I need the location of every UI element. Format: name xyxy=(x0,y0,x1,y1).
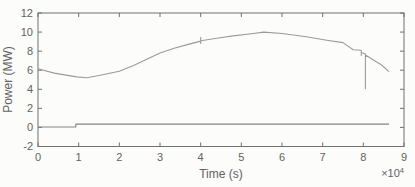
x-tick-label: 5 xyxy=(238,151,244,163)
y-tick-label: 2 xyxy=(27,102,33,114)
x-tick-label: 1 xyxy=(76,151,82,163)
multiplier-base: ×10 xyxy=(381,167,400,179)
power-chart-figure: 0123456789-2024681012 Power (MW) Time (s… xyxy=(0,0,415,187)
y-tick-label: -2 xyxy=(23,140,33,152)
x-tick-label: 6 xyxy=(279,151,285,163)
y-axis-label: Power (MW) xyxy=(1,46,15,113)
y-tick-label: 10 xyxy=(21,26,33,38)
multiplier-exponent: 4 xyxy=(400,166,404,175)
y-tick-label: 8 xyxy=(27,45,33,57)
x-tick-label: 8 xyxy=(360,151,366,163)
x-tick-label: 2 xyxy=(116,151,122,163)
x-tick-label: 3 xyxy=(157,151,163,163)
series-line-upper-power-curve xyxy=(38,32,389,89)
y-tick-label: 12 xyxy=(21,7,33,19)
x-tick-label: 4 xyxy=(198,151,204,163)
y-tick-label: 6 xyxy=(27,64,33,76)
series-line-lower-power-step xyxy=(38,124,389,127)
y-tick-label: 4 xyxy=(27,83,33,95)
plot-box xyxy=(38,13,404,147)
y-tick-label: 0 xyxy=(27,121,33,133)
x-tick-label: 9 xyxy=(401,151,407,163)
x-axis-exponent-multiplier: ×104 xyxy=(381,166,404,179)
x-axis-label: Time (s) xyxy=(199,167,243,181)
x-tick-label: 0 xyxy=(35,151,41,163)
x-tick-label: 7 xyxy=(320,151,326,163)
power-time-line-chart: 0123456789-2024681012 Power (MW) Time (s… xyxy=(0,0,415,187)
